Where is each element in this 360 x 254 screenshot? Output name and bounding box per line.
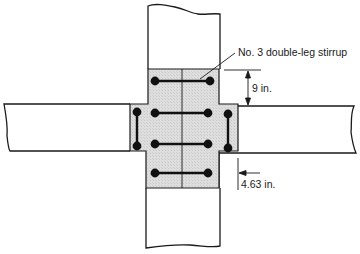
right-beam [219,106,356,188]
horizontal-dimension-label: 4.63 in. [241,178,275,190]
joint-diagram: No. 3 double-leg stirrup 9 in. 4.63 in. [0,0,360,254]
vertical-dimension-label: 9 in. [252,82,272,94]
lower-column [146,188,220,248]
upper-column [148,4,220,69]
stirrup-label: No. 3 double-leg stirrup [238,46,347,58]
left-beam [4,104,130,151]
